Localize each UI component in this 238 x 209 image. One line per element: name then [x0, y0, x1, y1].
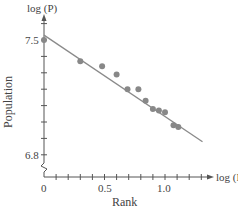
- y-axis-arrow-icon: [42, 14, 47, 21]
- y-tick-label-7-5: 7.5: [25, 34, 39, 46]
- data-points: [41, 37, 181, 130]
- data-point: [135, 86, 141, 92]
- x-tick-label-0-5: 0.5: [98, 182, 112, 194]
- data-point: [150, 106, 156, 112]
- data-point: [162, 109, 168, 115]
- x-tick-label-1-0: 1.0: [157, 182, 171, 194]
- x-tick-label-0: 0: [41, 182, 47, 194]
- y-label: Population: [1, 76, 15, 128]
- data-point: [125, 86, 131, 92]
- data-point: [175, 124, 181, 130]
- x-label: Rank: [112, 195, 137, 209]
- data-point: [114, 71, 120, 77]
- x-axis-title: log (R): [216, 171, 238, 184]
- data-point: [143, 98, 149, 104]
- data-point: [99, 63, 105, 69]
- y-axis-title: log (P): [27, 2, 58, 15]
- data-point: [41, 37, 47, 43]
- y-axis: [41, 20, 47, 177]
- y-tick-label-6-8: 6.8: [25, 149, 39, 161]
- x-axis-arrow-icon: [207, 175, 214, 180]
- chart: log (P) log (R) 7.5 6.8 0 0.5 1.0 Rank P…: [0, 0, 238, 209]
- data-point: [156, 108, 162, 114]
- data-point: [77, 58, 83, 64]
